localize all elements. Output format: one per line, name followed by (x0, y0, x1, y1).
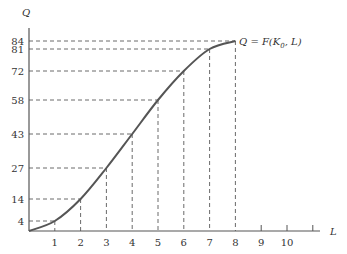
x-tick-label: 9 (258, 237, 264, 248)
x-axis-label: L (329, 226, 337, 237)
y-tick-label: 84 (11, 36, 24, 47)
y-tick-label: 58 (11, 95, 24, 106)
x-tick-label: 10 (281, 237, 294, 248)
y-tick-label: 4 (18, 216, 24, 227)
y-tick-label: 43 (11, 129, 24, 140)
x-tick-label: 5 (155, 237, 161, 248)
x-tick-label: 6 (181, 237, 187, 248)
y-tick-label: 27 (11, 163, 24, 174)
production-function-chart: 41427435872818412345678910 Q L Q = F(K0,… (0, 0, 347, 254)
x-tick-label: 1 (52, 237, 58, 248)
x-tick-label: 2 (77, 237, 83, 248)
y-axis-label: Q (22, 7, 30, 18)
axes (29, 28, 320, 231)
x-tick-label: 8 (232, 237, 238, 248)
y-tick-label: 72 (11, 66, 24, 77)
x-tick-label: 3 (103, 237, 109, 248)
x-tick-label: 7 (206, 237, 212, 248)
x-tick-label: 4 (129, 237, 135, 248)
curve-label: Q = F(K0, L) (239, 36, 302, 50)
y-tick-label: 14 (11, 194, 24, 205)
dashed-guides (29, 41, 235, 231)
